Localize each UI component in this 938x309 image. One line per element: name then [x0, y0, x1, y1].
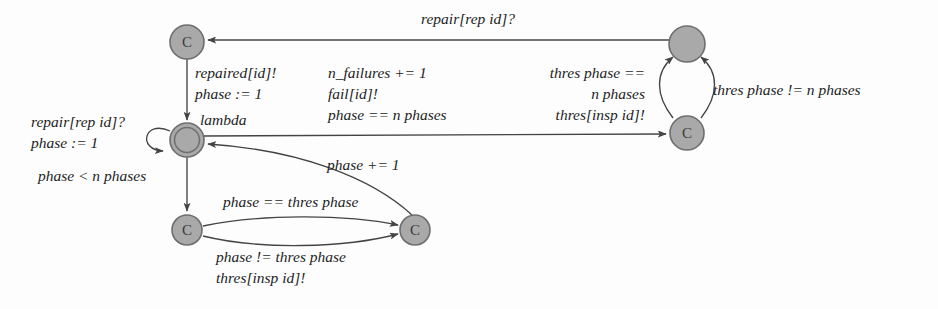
label-repair-top: repair[rep id]?: [421, 9, 515, 29]
label-repaired-block: repaired[id]! phase := 1: [195, 62, 277, 104]
label-thres-equal-block: thres phase == n phases thres[insp id]!: [405, 62, 645, 125]
label-repaired-line-1: repaired[id]!: [195, 62, 277, 83]
label-repair-loop-block: repair[rep id]? phase := 1: [31, 111, 125, 153]
node-lambda[interactable]: [170, 123, 204, 157]
label-lambda-name: lambda: [200, 110, 247, 130]
edge-phase-eq-thres: [203, 217, 398, 226]
label-thres-eq-line-2: n phases: [405, 83, 645, 104]
automaton-diagram: C C C C repair[rep id]? repaired[id]! ph…: [0, 0, 938, 309]
node-inspect-right[interactable]: C: [400, 215, 430, 245]
graph-canvas: C C C C: [0, 0, 938, 309]
edge-self-loop-repair: [147, 128, 170, 151]
label-thres-notequal: thres phase != n phases: [713, 80, 861, 100]
label-phase-neq-line-2: thres[insp id]!: [216, 267, 346, 288]
label-phase-eq-thres: phase == thres phase: [223, 192, 358, 212]
node-inspect-left[interactable]: C: [172, 215, 202, 245]
label-repair-loop-line-1: repair[rep id]?: [31, 111, 125, 132]
edge-thres-equal: [660, 57, 674, 118]
label-thres-eq-line-3: thres[insp id]!: [405, 104, 645, 125]
node-failed-commit[interactable]: C: [670, 116, 704, 150]
node-failed[interactable]: [669, 26, 705, 62]
label-phase-less: phase < n phases: [38, 166, 146, 186]
label-phase-neq-block: phase != thres phase thres[insp id]!: [216, 246, 346, 288]
label-repaired-line-2: phase := 1: [195, 83, 277, 104]
label-repair-loop-line-2: phase := 1: [31, 132, 125, 153]
node-inspect-left-label: C: [182, 222, 192, 238]
node-inspect-right-label: C: [410, 222, 420, 238]
label-phase-neq-line-1: phase != thres phase: [216, 246, 346, 267]
edge-phase-neq-thres: [203, 234, 398, 246]
edge-failure: [204, 134, 666, 136]
node-repairing-label: C: [182, 34, 192, 50]
label-phase-increment: phase += 1: [327, 155, 400, 175]
label-thres-eq-line-1: thres phase ==: [405, 62, 645, 83]
node-repairing[interactable]: C: [170, 25, 204, 59]
node-failed-commit-label: C: [682, 125, 692, 141]
